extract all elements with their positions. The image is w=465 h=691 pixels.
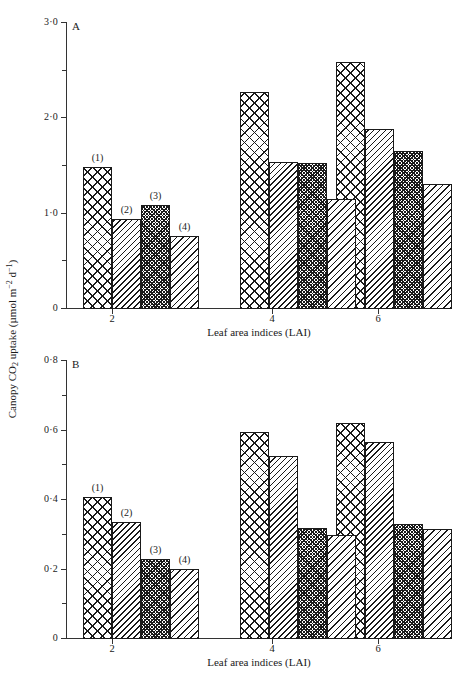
panel-a-letter: A <box>72 20 80 32</box>
bar-annotation-4: (4) <box>164 555 205 565</box>
y-tick-major <box>61 213 66 214</box>
y-tick-minor <box>62 395 66 396</box>
y-tick-label: 1·0 <box>20 208 58 218</box>
bar-series-4-group-6[interactable] <box>423 184 452 309</box>
y-tick-major <box>61 569 66 570</box>
bar-series-2-group-6[interactable] <box>365 442 394 639</box>
y-tick-major <box>61 117 66 118</box>
bar-series-2-group-4[interactable] <box>269 456 298 639</box>
bar-series-1-group-4[interactable] <box>240 432 269 639</box>
y-tick-label: 0 <box>20 303 58 313</box>
bar-series-4-group-4[interactable] <box>327 199 356 309</box>
bar-annotation-4: (4) <box>164 222 205 232</box>
x-tick-label: 2 <box>92 313 132 324</box>
bar-series-2-group-4[interactable] <box>269 162 298 309</box>
bar-series-3-group-6[interactable] <box>394 151 423 309</box>
bar-annotation-2: (2) <box>106 508 147 518</box>
x-tick-label: 4 <box>252 643 292 654</box>
y-tick-minor <box>62 534 66 535</box>
bar-series-2-group-2[interactable] <box>112 219 141 309</box>
bar-series-3-group-4[interactable] <box>298 528 327 639</box>
bar-series-1-group-4[interactable] <box>240 92 269 309</box>
bar-series-2-group-2[interactable] <box>112 522 141 639</box>
y-tick-label: 0·2 <box>20 564 58 574</box>
y-tick-minor <box>62 603 66 604</box>
bar-annotation-1: (1) <box>77 153 118 163</box>
bar-series-3-group-2[interactable] <box>141 559 170 639</box>
bar-series-3-group-2[interactable] <box>141 205 170 309</box>
bar-series-4-group-2[interactable] <box>170 236 199 309</box>
bar-annotation-1: (1) <box>77 483 118 493</box>
panel-b-letter: B <box>72 358 79 370</box>
y-tick-minor <box>62 260 66 261</box>
x-tick-label: 2 <box>92 643 132 654</box>
bar-series-4-group-2[interactable] <box>170 569 199 639</box>
y-axis-label-text: Canopy CO2 uptake (µmol m−2 d−1) <box>6 260 18 418</box>
y-tick-major <box>61 22 66 23</box>
bar-annotation-3: (3) <box>135 545 176 555</box>
y-tick-label: 0·8 <box>20 355 58 365</box>
y-axis-line <box>66 22 67 309</box>
bar-series-3-group-6[interactable] <box>394 524 423 639</box>
y-tick-major <box>61 638 66 639</box>
bar-annotation-2: (2) <box>106 205 147 215</box>
bar-series-2-group-6[interactable] <box>365 129 394 309</box>
bar-series-4-group-4[interactable] <box>327 535 356 639</box>
x-tick-label: 6 <box>358 643 398 654</box>
y-tick-label: 3·0 <box>20 17 58 27</box>
bar-series-1-group-2[interactable] <box>83 497 112 639</box>
y-tick-label: 0·4 <box>20 494 58 504</box>
y-tick-major <box>61 499 66 500</box>
y-tick-label: 0·6 <box>20 425 58 435</box>
x-axis-title: Leaf area indices (LAI) <box>66 326 452 338</box>
x-axis-title: Leaf area indices (LAI) <box>66 656 452 668</box>
figure-canvas: Canopy CO2 uptake (µmol m−2 d−1) 01·02·0… <box>0 0 465 691</box>
y-tick-label: 0 <box>20 633 58 643</box>
y-tick-minor <box>62 70 66 71</box>
y-axis-label: Canopy CO2 uptake (µmol m−2 d−1) <box>4 189 22 489</box>
x-tick-label: 4 <box>252 313 292 324</box>
y-tick-label: 2·0 <box>20 112 58 122</box>
y-tick-major <box>61 360 66 361</box>
y-tick-minor <box>62 464 66 465</box>
bar-annotation-3: (3) <box>135 191 176 201</box>
y-tick-major <box>61 430 66 431</box>
y-tick-minor <box>62 165 66 166</box>
y-tick-major <box>61 308 66 309</box>
bar-series-4-group-6[interactable] <box>423 529 452 639</box>
bar-series-1-group-2[interactable] <box>83 167 112 309</box>
x-tick-label: 6 <box>358 313 398 324</box>
y-axis-line <box>66 360 67 639</box>
bar-series-3-group-4[interactable] <box>298 163 327 309</box>
